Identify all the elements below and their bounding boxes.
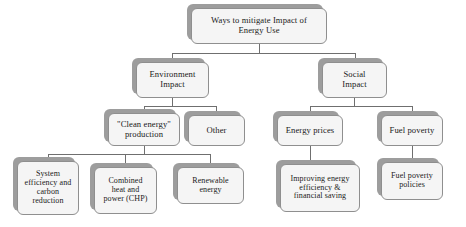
node-box[interactable]: Improving energy efficiency & financial … xyxy=(280,164,360,212)
node-root[interactable]: Ways to mitigate Impact of Energy Use xyxy=(191,8,327,44)
node-label-system-efficiency-carbon-reduction: System efficiency and carbon reduction xyxy=(22,170,75,206)
node-combined-heat-power-chp[interactable]: Combined heat and power (CHP) xyxy=(94,167,157,214)
node-other[interactable]: Other xyxy=(188,115,245,146)
node-box[interactable]: Other xyxy=(188,115,245,146)
node-box[interactable]: Environment Impact xyxy=(136,62,209,98)
node-label-fuel-poverty-policies: Fuel poverty policies xyxy=(388,172,436,190)
node-box[interactable]: System efficiency and carbon reduction xyxy=(17,161,79,215)
node-box[interactable]: Energy prices xyxy=(277,115,343,146)
diagram-canvas: Ways to mitigate Impact of Energy Use En… xyxy=(0,0,466,227)
node-label-fuel-poverty: Fuel poverty xyxy=(387,126,438,136)
node-label-social-impact: Social Impact xyxy=(339,70,369,89)
node-improving-energy-efficiency-financial-saving[interactable]: Improving energy efficiency & financial … xyxy=(280,164,360,212)
node-label-root: Ways to mitigate Impact of Energy Use xyxy=(208,16,310,35)
node-fuel-poverty-policies[interactable]: Fuel poverty policies xyxy=(381,162,443,200)
node-label-other: Other xyxy=(203,126,229,136)
node-label-combined-heat-power-chp: Combined heat and power (CHP) xyxy=(101,177,151,204)
node-system-efficiency-carbon-reduction[interactable]: System efficiency and carbon reduction xyxy=(17,161,79,215)
node-clean-energy-production[interactable]: "Clean energy" production xyxy=(108,113,180,146)
node-box[interactable]: Ways to mitigate Impact of Energy Use xyxy=(191,8,327,44)
node-label-improving-energy-efficiency-financial-saving: Improving energy efficiency & financial … xyxy=(288,175,353,202)
node-label-environment-impact: Environment Impact xyxy=(147,70,199,89)
node-renewable-energy[interactable]: Renewable energy xyxy=(177,167,244,204)
node-label-renewable-energy: Renewable energy xyxy=(189,177,231,195)
node-label-clean-energy-production: "Clean energy" production xyxy=(114,120,174,139)
node-box[interactable]: Fuel poverty policies xyxy=(381,162,443,200)
node-social-impact[interactable]: Social Impact xyxy=(322,62,387,98)
node-label-energy-prices: Energy prices xyxy=(283,126,338,136)
node-box[interactable]: "Clean energy" production xyxy=(108,113,180,146)
node-fuel-poverty[interactable]: Fuel poverty xyxy=(381,115,443,146)
node-box[interactable]: Fuel poverty xyxy=(381,115,443,146)
node-box[interactable]: Combined heat and power (CHP) xyxy=(94,167,157,214)
node-box[interactable]: Social Impact xyxy=(322,62,387,98)
node-box[interactable]: Renewable energy xyxy=(177,167,244,204)
node-environment-impact[interactable]: Environment Impact xyxy=(136,62,209,98)
node-energy-prices[interactable]: Energy prices xyxy=(277,115,343,146)
